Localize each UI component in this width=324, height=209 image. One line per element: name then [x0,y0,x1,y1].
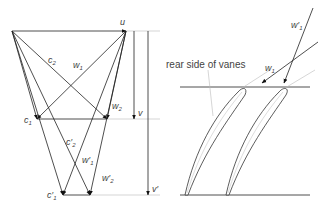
w1-prime-vector [63,31,126,195]
velocity-triangle-diagram: u c2 w1 w2 c1 v c′2 w′1 w′2 c′1 v′ rear … [0,0,324,209]
label-v-prime: v′ [152,184,159,194]
label-c2: c2 [48,55,57,66]
label-w1: w1 [73,60,83,71]
label-c1-prime: c′1 [47,190,57,201]
w2-prime-vector [90,31,126,195]
annotation-rear-side-of-vanes: rear side of vanes [166,59,246,70]
label-u: u [120,17,125,27]
label-c1: c1 [24,115,32,126]
label-c2-prime: c′2 [66,137,76,148]
vane-1 [185,88,246,195]
annotation-leader [208,70,213,116]
blade2-extension [285,70,315,88]
label-w1-prime: w′1 [82,155,94,166]
c2-vector [12,31,107,119]
label-w2: w2 [112,101,123,112]
blade-cascade: rear side of vanes w′1 w1 [166,8,318,195]
cascade-label-w1-prime: w′1 [291,20,303,31]
velocity-triangles: u c2 w1 w2 c1 v c′2 w′1 w′2 c′1 v′ [12,17,160,201]
cascade-label-w1: w1 [265,63,275,74]
label-v: v [138,108,143,118]
label-w2-prime: w′2 [102,173,114,184]
c1-prime-vector [12,31,63,195]
